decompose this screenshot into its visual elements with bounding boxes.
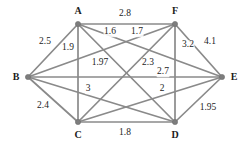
graph-figure: 2.81.61.72.51.93.24.11.972.32.7322.41.81… xyxy=(0,0,247,146)
node-d xyxy=(172,119,177,124)
node-e xyxy=(219,74,224,79)
edge-b-a xyxy=(28,24,78,77)
node-c xyxy=(75,119,80,124)
node-f xyxy=(172,21,177,26)
edges-group xyxy=(28,24,222,122)
graph-canvas xyxy=(0,0,247,146)
nodes-group xyxy=(25,21,224,124)
edge-b-c xyxy=(28,77,78,122)
node-b xyxy=(25,74,30,79)
node-a xyxy=(75,21,80,26)
